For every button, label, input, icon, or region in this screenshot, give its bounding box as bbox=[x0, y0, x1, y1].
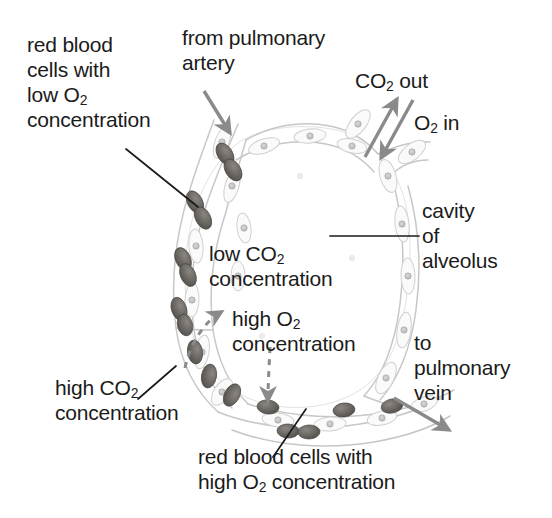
label-co2-out: CO2 out bbox=[355, 69, 428, 94]
label-line: concentration bbox=[27, 108, 150, 131]
label-line: high CO bbox=[55, 376, 131, 399]
label-cavity-of-alveolus: cavityofalveolus bbox=[422, 199, 497, 274]
label-line: cavity bbox=[422, 199, 474, 222]
label-line: high O bbox=[198, 470, 259, 493]
label-line: artery bbox=[182, 51, 234, 74]
subscript: 2 bbox=[277, 251, 285, 267]
label-line: O bbox=[414, 111, 430, 134]
subscript: 2 bbox=[293, 316, 301, 332]
label-line: from pulmonary bbox=[182, 26, 325, 49]
subscript: 2 bbox=[131, 385, 139, 401]
label-line: in bbox=[438, 111, 460, 134]
label-o2-in: O2 in bbox=[414, 111, 459, 136]
label-line: out bbox=[394, 69, 428, 92]
label-line: red blood bbox=[27, 33, 113, 56]
label-red-blood-cells-high-o2: red blood cells withhigh O2 concentratio… bbox=[198, 445, 395, 495]
label-to-pulmonary-vein: topulmonaryvein bbox=[414, 331, 510, 406]
label-line: low CO bbox=[209, 242, 277, 265]
label-line: concentration bbox=[266, 470, 395, 493]
label-line: pulmonary bbox=[414, 356, 510, 379]
label-line: vein bbox=[414, 381, 452, 404]
label-line: cells with bbox=[27, 58, 110, 81]
label-line: concentration bbox=[232, 332, 355, 355]
label-high-co2-concentration: high CO2concentration bbox=[55, 376, 178, 426]
alveolus-gas-exchange-diagram: red bloodcells withlow O2concentration f… bbox=[0, 0, 552, 518]
label-line: concentration bbox=[209, 267, 332, 290]
label-line: to bbox=[414, 331, 431, 354]
label-red-blood-cells-low-o2: red bloodcells withlow O2concentration bbox=[27, 33, 150, 133]
label-line: of bbox=[422, 224, 439, 247]
label-from-pulmonary-artery: from pulmonaryartery bbox=[182, 26, 325, 76]
label-low-co2-concentration: low CO2concentration bbox=[209, 242, 332, 292]
subscript: 2 bbox=[430, 120, 438, 136]
subscript: 2 bbox=[80, 92, 88, 108]
label-line: high O bbox=[232, 307, 293, 330]
label-line: alveolus bbox=[422, 249, 497, 272]
label-high-o2-concentration: high O2concentration bbox=[232, 307, 355, 357]
subscript: 2 bbox=[386, 78, 394, 94]
label-line: concentration bbox=[55, 401, 178, 424]
label-line: red blood cells with bbox=[198, 445, 373, 468]
label-line: low O bbox=[27, 83, 80, 106]
label-line: CO bbox=[355, 69, 386, 92]
arrow-from-pulmonary-artery bbox=[204, 91, 230, 133]
leader-rbc-low-o2 bbox=[126, 149, 198, 207]
